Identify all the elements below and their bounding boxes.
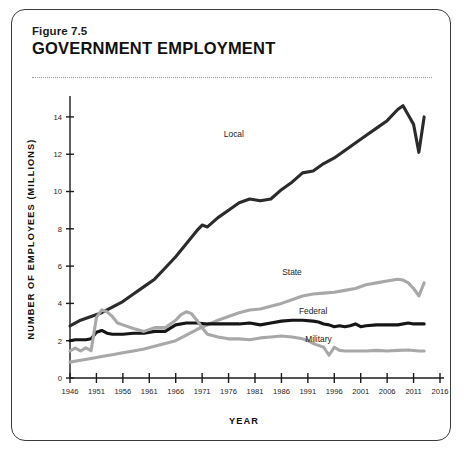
figure-header: Figure 7.5 GOVERNMENT EMPLOYMENT <box>32 24 432 58</box>
x-tick-label: 1956 <box>114 387 131 396</box>
x-tick-label: 1976 <box>220 387 237 396</box>
x-axis-title: YEAR <box>229 416 259 426</box>
figure-number: Figure 7.5 <box>32 24 432 38</box>
x-tick-label: 1986 <box>273 387 290 396</box>
series-lines <box>70 106 424 362</box>
y-tick-label: 4 <box>58 299 62 308</box>
series-label-federal: Federal <box>299 306 328 316</box>
x-tick-label: 1961 <box>141 387 158 396</box>
x-tick-label: 1991 <box>299 387 316 396</box>
series-line-local <box>70 106 424 326</box>
series-label-local: Local <box>224 129 244 139</box>
series-line-federal <box>70 320 424 341</box>
series-line-military <box>70 310 424 355</box>
x-axis: 1946195119561961196619711976198119861991… <box>62 373 449 396</box>
x-tick-label: 2011 <box>405 387 421 396</box>
x-tick-label: 2006 <box>379 387 396 396</box>
y-tick-label: 12 <box>54 150 62 159</box>
y-tick-label: 0 <box>58 374 62 383</box>
x-tick-label: 2016 <box>432 387 449 396</box>
figure-card: Figure 7.5 GOVERNMENT EMPLOYMENT 0246810… <box>11 9 451 441</box>
y-tick-label: 6 <box>58 262 62 271</box>
x-tick-label: 1946 <box>62 387 79 396</box>
series-label-state: State <box>282 267 302 277</box>
x-tick-label: 1966 <box>167 387 184 396</box>
y-tick-label: 2 <box>58 337 62 346</box>
x-tick-label: 1981 <box>247 387 264 396</box>
series-label-military: Military <box>305 334 332 344</box>
figure-title: GOVERNMENT EMPLOYMENT <box>32 39 432 58</box>
x-tick-label: 2001 <box>352 387 369 396</box>
header-divider <box>32 77 432 78</box>
x-tick-label: 1951 <box>88 387 105 396</box>
chart-plot-area: 02468101214 1946195119561961196619711976… <box>12 84 452 436</box>
x-tick-label: 1971 <box>194 387 211 396</box>
y-axis-title: NUMBER OF EMPLOYEES (MILLIONS) <box>26 139 36 340</box>
x-tick-label: 1996 <box>326 387 343 396</box>
y-tick-label: 14 <box>54 113 62 122</box>
government-employment-line-chart: 02468101214 1946195119561961196619711976… <box>12 84 452 436</box>
y-tick-label: 10 <box>54 187 62 196</box>
y-tick-label: 8 <box>58 225 62 234</box>
